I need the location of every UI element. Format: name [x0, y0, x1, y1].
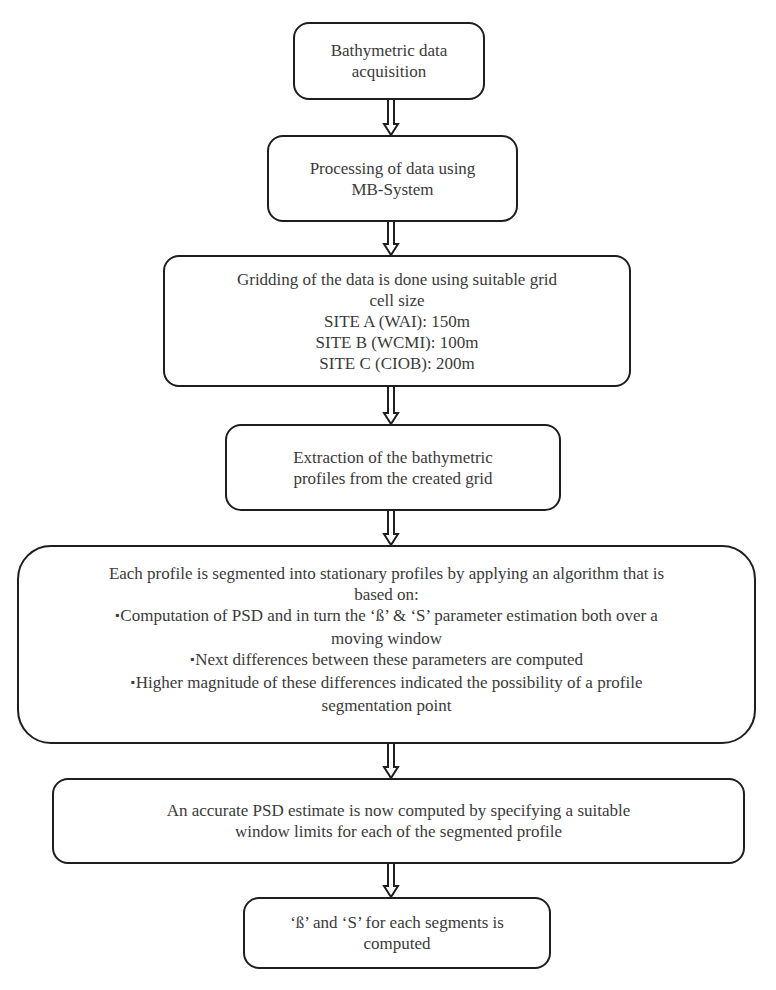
step-text: computed: [363, 933, 430, 954]
double-arrow-down-icon: [381, 511, 401, 546]
double-arrow-down-icon: [381, 387, 401, 425]
step-processing-mb-system: Processing of data using MB-System: [267, 135, 518, 222]
step-text: acquisition: [352, 61, 427, 82]
step-text: Each profile is segmented into stationar…: [109, 563, 664, 584]
step-text: moving window: [331, 628, 442, 649]
step-text: window limits for each of the segmented …: [235, 821, 562, 842]
double-arrow-down-icon: [381, 222, 401, 256]
step-text: An accurate PSD estimate is now computed…: [167, 800, 631, 821]
step-gridding: Gridding of the data is done using suita…: [163, 255, 631, 387]
step-text: profiles from the created grid: [293, 468, 492, 489]
step-accurate-psd-estimate: An accurate PSD estimate is now computed…: [52, 778, 745, 864]
step-text: segmentation point: [322, 695, 452, 716]
step-segmentation-algorithm: Each profile is segmented into stationar…: [17, 545, 756, 744]
step-extraction-profiles: Extraction of the bathymetric profiles f…: [225, 424, 561, 511]
step-text: Processing of data using: [310, 158, 476, 179]
step-text: ‘ß’ and ‘S’ for each segments is: [290, 912, 504, 933]
step-text: Gridding of the data is done using suita…: [237, 269, 557, 290]
step-beta-s-computed: ‘ß’ and ‘S’ for each segments is compute…: [243, 897, 551, 969]
site-c-grid-size: SITE C (CIOB): 200m: [319, 353, 474, 374]
step-text: Bathymetric data: [331, 40, 448, 61]
site-b-grid-size: SITE B (WCMI): 100m: [316, 332, 479, 353]
step-text: Extraction of the bathymetric: [293, 447, 493, 468]
double-arrow-down-icon: [381, 864, 401, 898]
bullet-higher-magnitude: Higher magnitude of these differences in…: [131, 672, 643, 695]
step-text: based on:: [354, 584, 419, 605]
step-text: cell size: [369, 290, 424, 311]
site-a-grid-size: SITE A (WAI): 150m: [324, 311, 470, 332]
step-bathymetric-data-acquisition: Bathymetric data acquisition: [293, 22, 485, 100]
bullet-next-differences: Next differences between these parameter…: [190, 649, 583, 672]
bullet-psd-computation: Computation of PSD and in turn the ‘ß’ &…: [115, 605, 658, 628]
double-arrow-down-icon: [381, 100, 401, 136]
double-arrow-down-icon: [381, 744, 401, 779]
step-text: MB-System: [351, 179, 433, 200]
